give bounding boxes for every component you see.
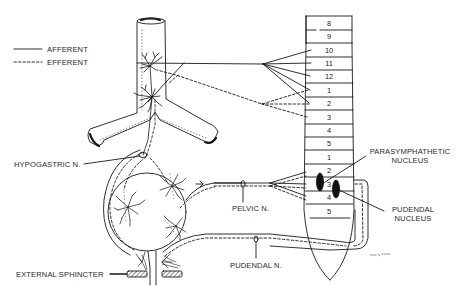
segment-s4: 4 xyxy=(319,193,339,202)
parasympathetic-nucleus-label: PARASYMPHATHETIC NUCLEUS xyxy=(360,147,460,165)
segment-s5: 5 xyxy=(319,207,339,216)
segment-t12: 12 xyxy=(319,72,339,81)
segment-t11: 11 xyxy=(319,59,339,68)
segment-s3: 3 xyxy=(319,180,339,189)
pelvic-nerve xyxy=(196,172,306,202)
segment-l4: 4 xyxy=(319,126,339,135)
segment-l1: 1 xyxy=(319,86,339,95)
external-sphincter xyxy=(110,271,182,277)
afferent-pathway-thoracolumbar xyxy=(137,50,311,103)
segment-l5: 5 xyxy=(319,139,339,148)
legend-efferent-label: EFFERENT xyxy=(47,58,88,67)
segment-t10: 10 xyxy=(319,46,339,55)
pudendal-nerve-label: PUDENDAL N. xyxy=(230,261,282,270)
pudendal-nerve xyxy=(254,236,258,258)
segment-l3: 3 xyxy=(319,113,339,122)
parasympathetic-label-line1: PARASYMPHATHETIC xyxy=(360,147,460,156)
legend-swatches xyxy=(14,49,42,62)
segment-s2: 2 xyxy=(319,166,339,175)
sphincter-fibers xyxy=(139,255,180,270)
aortic-plexus xyxy=(134,52,162,157)
artist-signature xyxy=(370,254,390,256)
hypogastric-fibers xyxy=(124,157,168,190)
pudendal-nucleus-label-line2: NUCLEUS xyxy=(383,214,443,223)
hypogastric-leader xyxy=(84,156,140,164)
segment-l2: 2 xyxy=(319,99,339,108)
aorta-bifurcation xyxy=(88,18,218,146)
external-sphincter-label: EXTERNAL SPHINCTER xyxy=(16,270,104,279)
pudendal-nucleus-leader xyxy=(339,190,384,211)
pelvic-nerve-label: PELVIC N. xyxy=(232,204,269,213)
segment-t9: 9 xyxy=(319,32,339,41)
segment-s1: 1 xyxy=(319,153,339,162)
hypogastric-nerve-label: HYPOGASTRIC N. xyxy=(14,160,80,169)
segment-t8: 8 xyxy=(319,19,339,28)
pudendal-nucleus-label: PUDENDAL NUCLEUS xyxy=(383,205,443,223)
legend-afferent-label: AFFERENT xyxy=(47,45,88,54)
pudendal-nucleus-label-line1: PUDENDAL xyxy=(383,205,443,214)
parasympathetic-label-line2: NUCLEUS xyxy=(360,156,460,165)
